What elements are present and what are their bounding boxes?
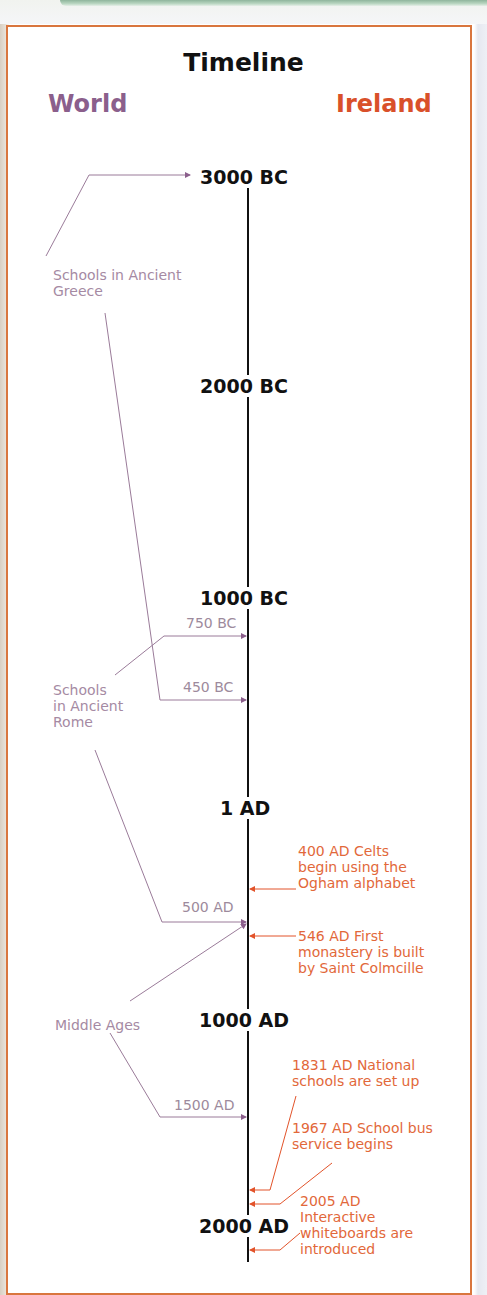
ireland-event-2005ad-line1: 2005 AD bbox=[300, 1193, 413, 1209]
world-event-middle-ages-line1: Middle Ages bbox=[55, 1017, 140, 1033]
world-event-rome-line1: Schools bbox=[53, 682, 123, 698]
era-2000bc: 2000 BC bbox=[199, 375, 289, 397]
era-1000ad: 1000 AD bbox=[198, 1009, 290, 1031]
ireland-event-546ad-line1: 546 AD First bbox=[298, 928, 424, 944]
ireland-event-1967ad-line2: service begins bbox=[292, 1136, 433, 1152]
middle-ages-start-connector bbox=[130, 924, 246, 1001]
ireland-event-1967ad: 1967 AD School bus service begins bbox=[292, 1120, 433, 1152]
world-date-1500ad: 1500 AD bbox=[174, 1097, 234, 1113]
page-title: Timeline bbox=[0, 48, 487, 77]
greece-start-connector bbox=[46, 175, 190, 256]
ireland-event-400ad-line3: Ogham alphabet bbox=[298, 875, 415, 891]
ireland-event-1967ad-line1: 1967 AD School bus bbox=[292, 1120, 433, 1136]
ireland-event-400ad-line1: 400 AD Celts bbox=[298, 843, 415, 859]
ireland-event-1831ad: 1831 AD National schools are set up bbox=[292, 1057, 419, 1089]
ireland-event-1831ad-line2: schools are set up bbox=[292, 1073, 419, 1089]
rome-start-connector bbox=[115, 636, 246, 675]
ireland-column-heading: Ireland bbox=[336, 90, 432, 118]
ireland-event-546ad-line3: by Saint Colmcille bbox=[298, 960, 424, 976]
ireland-event-2005ad-line4: introduced bbox=[300, 1241, 413, 1257]
event-1831ad-arrow bbox=[250, 1096, 296, 1190]
ireland-event-2005ad-line3: whiteboards are bbox=[300, 1225, 413, 1241]
ireland-event-400ad-line2: begin using the bbox=[298, 859, 415, 875]
world-event-rome: Schools in Ancient Rome bbox=[53, 682, 123, 730]
ireland-event-2005ad-line2: Interactive bbox=[300, 1209, 413, 1225]
ireland-event-400ad: 400 AD Celts begin using the Ogham alpha… bbox=[298, 843, 415, 891]
ireland-event-546ad-line2: monastery is built bbox=[298, 944, 424, 960]
world-event-greece-line1: Schools in Ancient bbox=[53, 267, 181, 283]
world-date-750bc: 750 BC bbox=[186, 615, 236, 631]
world-event-middle-ages: Middle Ages bbox=[55, 1017, 140, 1033]
world-date-500ad: 500 AD bbox=[182, 899, 234, 915]
world-event-greece: Schools in Ancient Greece bbox=[53, 267, 181, 299]
world-date-450bc: 450 BC bbox=[183, 679, 233, 695]
ireland-event-546ad: 546 AD First monastery is built by Saint… bbox=[298, 928, 424, 976]
era-1000bc: 1000 BC bbox=[199, 587, 289, 609]
era-1ad: 1 AD bbox=[219, 797, 271, 819]
greece-end-connector bbox=[105, 313, 246, 700]
rome-end-connector bbox=[95, 750, 246, 922]
ireland-event-2005ad: 2005 AD Interactive whiteboards are intr… bbox=[300, 1193, 413, 1257]
ireland-event-1831ad-line1: 1831 AD National bbox=[292, 1057, 419, 1073]
world-column-heading: World bbox=[48, 90, 127, 118]
world-event-greece-line2: Greece bbox=[53, 283, 181, 299]
world-event-rome-line3: Rome bbox=[53, 714, 123, 730]
world-event-rome-line2: in Ancient bbox=[53, 698, 123, 714]
era-3000bc: 3000 BC bbox=[199, 166, 289, 188]
era-2000ad: 2000 AD bbox=[198, 1215, 290, 1237]
